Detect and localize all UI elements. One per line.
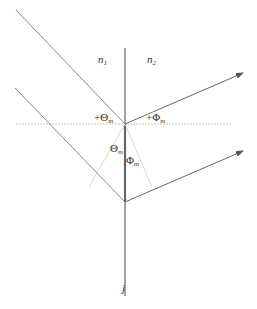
n1-label: n1 [98, 54, 107, 67]
refracted-ray-upper [125, 73, 243, 124]
refraction-diagram: n1 n2 +Θm +Φm Θm Φm j [0, 0, 257, 309]
phi-label: Φm [126, 155, 139, 168]
incident-ray-upper [16, 10, 125, 124]
n2-label: n2 [147, 54, 156, 67]
theta-plus-label: +Θm [94, 112, 113, 125]
refracted-ray-lower [125, 151, 243, 202]
incident-ray-lower [15, 88, 125, 202]
phi-plus-label: +Φm [146, 112, 165, 125]
interface-label: j [122, 283, 125, 294]
theta-label: Θm [110, 143, 123, 156]
